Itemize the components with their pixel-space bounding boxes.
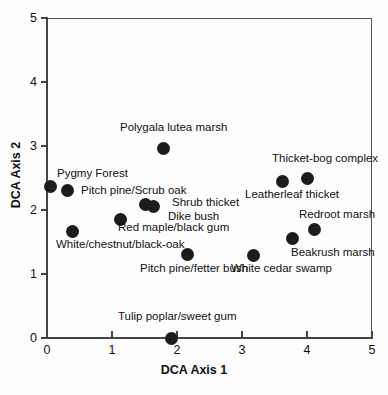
y-tick-label: 4 (21, 75, 37, 89)
x-axis-line (47, 337, 373, 339)
data-point-label: Dike bush (168, 210, 219, 223)
data-point (286, 232, 299, 245)
x-tick-mark (306, 331, 308, 338)
y-axis-title: DCA Axis 2 (9, 115, 23, 235)
y-tick-mark (41, 209, 48, 211)
data-point (157, 142, 170, 155)
scatter-plot: 012345 012345 Pygmy ForestPitch pine/Scr… (0, 0, 388, 395)
x-tick-label: 2 (167, 343, 187, 357)
data-point-label: Beakrush marsh (291, 246, 375, 259)
data-point (61, 184, 74, 197)
data-point (308, 223, 321, 236)
y-tick-label: 5 (21, 11, 37, 25)
y-tick-label: 1 (21, 267, 37, 281)
data-point-label: Leatherleaf thicket (245, 188, 339, 201)
y-tick-mark (41, 81, 48, 83)
y-tick-label: 0 (21, 331, 37, 345)
data-point (301, 172, 314, 185)
data-point-label: Shrub thicket (172, 196, 239, 209)
x-tick-label: 5 (362, 343, 382, 357)
data-point-label: White/chestnut/black-oak (56, 238, 184, 251)
data-point (66, 225, 79, 238)
data-point (165, 332, 178, 345)
data-point-label: White cedar swamp (231, 262, 332, 275)
x-tick-mark (111, 331, 113, 338)
y-tick-label: 2 (21, 203, 37, 217)
data-point-label: Pitch pine/Scrub oak (81, 184, 186, 197)
data-point-label: Thicket-bog complex (272, 152, 378, 165)
x-tick-mark (371, 331, 373, 338)
data-point-label: Tulip poplar/sweet gum (118, 310, 236, 323)
y-tick-mark (41, 337, 48, 339)
y-tick-label: 3 (21, 139, 37, 153)
y-tick-mark (41, 17, 48, 19)
x-tick-label: 4 (297, 343, 317, 357)
x-tick-label: 1 (102, 343, 122, 357)
x-axis-title: DCA Axis 1 (0, 363, 388, 377)
y-axis-line (46, 18, 48, 339)
x-tick-label: 3 (232, 343, 252, 357)
x-tick-mark (241, 331, 243, 338)
data-point-label: Pygmy Forest (57, 167, 128, 180)
data-point-label: Redroot marsh (299, 208, 375, 221)
y-tick-mark (41, 145, 48, 147)
x-tick-label: 0 (37, 343, 57, 357)
y-tick-mark (41, 273, 48, 275)
data-point-label: Polygala lutea marsh (120, 121, 227, 134)
